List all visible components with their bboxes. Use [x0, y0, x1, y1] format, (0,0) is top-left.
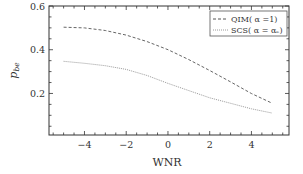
x-tick-label: −2: [119, 139, 133, 150]
y-tick-label: 0.4: [30, 44, 45, 55]
series-line-qim: [64, 27, 273, 103]
x-tick-label: −4: [77, 139, 91, 150]
x-axis-label: WNR: [152, 156, 182, 169]
plot-area: −4−20240.20.40.6WNRpbeQIM( α =1)SCS( α =…: [7, 1, 289, 170]
line-chart: −4−20240.20.40.6WNRpbeQIM( α =1)SCS( α =…: [0, 0, 303, 174]
legend-label: SCS( α = αₑ): [231, 26, 283, 35]
y-axis-label: pbe: [7, 62, 21, 79]
x-tick-label: 0: [165, 139, 171, 150]
legend-label: QIM( α =1): [231, 15, 277, 24]
y-tick-label: 0.2: [30, 88, 45, 99]
series-line-scs: [64, 61, 273, 113]
x-tick-label: 4: [248, 139, 254, 150]
x-tick-label: 2: [207, 139, 213, 150]
y-tick-label: 0.6: [30, 1, 45, 12]
